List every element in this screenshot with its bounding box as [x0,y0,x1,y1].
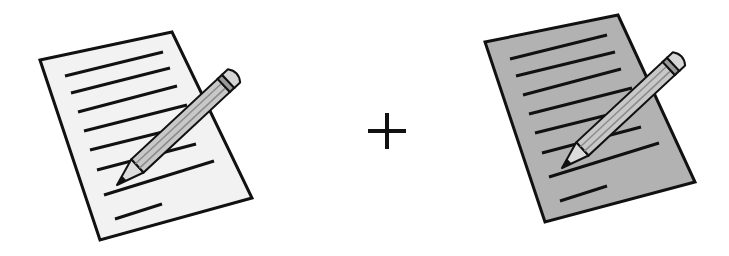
plus-icon [368,113,406,149]
figure: + [0,0,729,256]
right-document [485,15,695,222]
left-document [40,32,252,240]
document-pencil-icon [0,0,729,256]
